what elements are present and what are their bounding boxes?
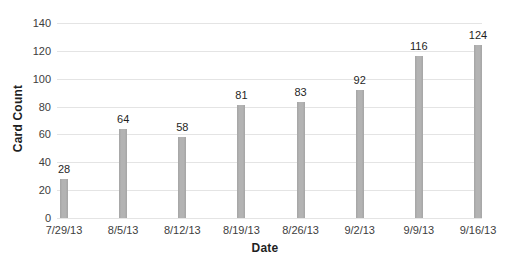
x-tick-label-9/9/13: 9/9/13: [389, 224, 449, 237]
x-tick-label-8/12/13: 8/12/13: [152, 224, 212, 237]
bar-9/9/13: [415, 56, 423, 218]
gridline-y-0: [57, 218, 482, 219]
y-tick-label-100: 100: [17, 73, 51, 86]
x-tick-label-8/5/13: 8/5/13: [93, 224, 153, 237]
y-tick-label-60: 60: [17, 128, 51, 141]
y-tick-label-80: 80: [17, 101, 51, 114]
bar-value-label-9/16/13: 124: [458, 29, 498, 42]
bar-chart: Card Count Date 020406080100120140287/29…: [0, 0, 511, 268]
x-tick-label-8/19/13: 8/19/13: [211, 224, 271, 237]
bar-value-label-9/9/13: 116: [399, 40, 439, 53]
x-tick-label-9/2/13: 9/2/13: [330, 224, 390, 237]
bar-value-label-8/12/13: 58: [162, 121, 202, 134]
y-tick-label-20: 20: [17, 184, 51, 197]
x-tick-label-7/29/13: 7/29/13: [34, 224, 94, 237]
bar-value-label-8/19/13: 81: [221, 89, 261, 102]
bar-8/19/13: [237, 105, 245, 218]
y-tick-label-120: 120: [17, 45, 51, 58]
bar-8/12/13: [178, 137, 186, 218]
bar-value-label-7/29/13: 28: [44, 163, 84, 176]
x-axis-title: Date: [215, 241, 315, 255]
bar-value-label-8/5/13: 64: [103, 113, 143, 126]
x-tick-label-9/16/13: 9/16/13: [448, 224, 508, 237]
gridline-y-140: [57, 23, 482, 24]
bar-9/16/13: [474, 45, 482, 218]
bar-8/5/13: [119, 129, 127, 218]
x-tick-label-8/26/13: 8/26/13: [271, 224, 331, 237]
bar-value-label-9/2/13: 92: [340, 74, 380, 87]
bar-9/2/13: [356, 90, 364, 218]
chart-figure: Card Count Date 020406080100120140287/29…: [0, 0, 511, 268]
y-tick-label-140: 140: [17, 17, 51, 30]
bar-value-label-8/26/13: 83: [281, 86, 321, 99]
bar-7/29/13: [60, 179, 68, 218]
bar-8/26/13: [297, 102, 305, 218]
